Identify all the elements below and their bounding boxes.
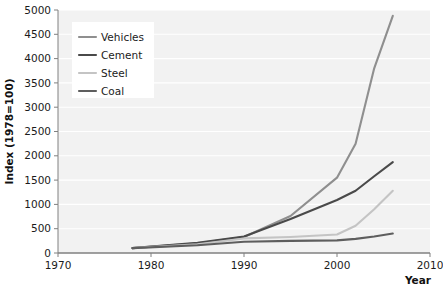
x-tick-label: 1980 [138,259,165,271]
legend-label-steel: Steel [101,67,128,79]
y-axis-title: Index (1978=100) [3,79,15,185]
legend: VehiclesCementSteelCoal [72,22,154,98]
y-tick-label: 2000 [24,149,51,161]
x-tick-label: 1970 [45,259,72,271]
y-tick-label: 2500 [24,125,51,137]
x-tick-label: 1990 [231,259,258,271]
y-tick-label: 4000 [24,52,51,64]
y-tick-label: 1500 [24,174,51,186]
x-tick-label: 2000 [324,259,351,271]
chart-container: 0500100015002000250030003500400045005000… [0,0,443,287]
x-tick-label: 2010 [417,259,443,271]
y-tick-label: 3500 [24,77,51,89]
line-chart: 0500100015002000250030003500400045005000… [0,0,443,287]
y-tick-label: 5000 [24,4,51,16]
x-axis-ticks: 19701980199020002010 [45,253,443,271]
y-tick-label: 0 [44,247,51,259]
y-axis-ticks: 0500100015002000250030003500400045005000 [24,4,58,259]
legend-label-vehicles: Vehicles [101,31,144,43]
y-tick-label: 4500 [24,28,51,40]
y-tick-label: 3000 [24,101,51,113]
y-tick-label: 1000 [24,198,51,210]
legend-label-cement: Cement [101,49,142,61]
x-axis-title: Year [404,274,432,286]
legend-label-coal: Coal [101,85,124,97]
y-tick-label: 500 [31,222,51,234]
